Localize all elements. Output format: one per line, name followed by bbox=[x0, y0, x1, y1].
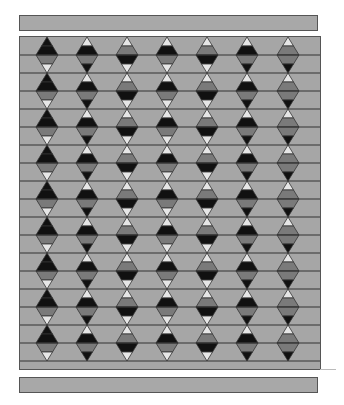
bottom-bar bbox=[19, 377, 318, 393]
diamond-bottom-segment bbox=[82, 352, 93, 361]
diamond-lower-segment bbox=[76, 271, 98, 280]
diamond-upper-segment bbox=[76, 82, 98, 91]
diamond-bottom-segment bbox=[82, 136, 93, 145]
diamond-lower-segment bbox=[116, 199, 138, 208]
diamond-top-segment bbox=[202, 37, 213, 46]
diamond-upper-segment bbox=[116, 298, 138, 307]
diamond-bottom-segment bbox=[202, 316, 213, 325]
diamond-top-segment bbox=[122, 253, 133, 262]
diamond-top-segment bbox=[42, 37, 53, 46]
diamond-lower-segment bbox=[156, 271, 178, 280]
diamond-lower-segment bbox=[36, 199, 58, 208]
diamond-top-segment bbox=[82, 181, 93, 190]
diamond-upper-segment bbox=[116, 118, 138, 127]
diamond-upper-segment bbox=[277, 82, 299, 91]
diamond-lower-segment bbox=[116, 163, 138, 172]
diamond-top-segment bbox=[42, 73, 53, 82]
diamond-lower-segment bbox=[277, 91, 299, 100]
diamond-bottom-segment bbox=[283, 352, 294, 361]
diamond-lower-segment bbox=[277, 55, 299, 64]
diamond-upper-segment bbox=[36, 82, 58, 91]
diamond-lower-segment bbox=[76, 343, 98, 352]
diamond-upper-segment bbox=[116, 190, 138, 199]
diamond-top-segment bbox=[283, 217, 294, 226]
diamond-bottom-segment bbox=[122, 136, 133, 145]
diamond-lower-segment bbox=[36, 91, 58, 100]
diamond-bottom-segment bbox=[82, 244, 93, 253]
diamond-top-segment bbox=[82, 145, 93, 154]
diamond-upper-segment bbox=[76, 334, 98, 343]
diamond-top-segment bbox=[122, 181, 133, 190]
diamond-bottom-segment bbox=[162, 136, 173, 145]
diamond-upper-segment bbox=[277, 46, 299, 55]
diamond-bottom-segment bbox=[82, 208, 93, 217]
diamond-pattern-frame bbox=[19, 36, 321, 370]
diamond-bottom-segment bbox=[202, 352, 213, 361]
diamond-bottom-segment bbox=[42, 352, 53, 361]
diamond-top-segment bbox=[283, 145, 294, 154]
diamond-upper-segment bbox=[196, 190, 218, 199]
diamond-top-segment bbox=[122, 145, 133, 154]
diamond-bottom-segment bbox=[283, 208, 294, 217]
diamond-lower-segment bbox=[196, 199, 218, 208]
diamond-upper-segment bbox=[156, 262, 178, 271]
diamond-top-segment bbox=[242, 289, 253, 298]
diamond-lower-segment bbox=[156, 163, 178, 172]
diamond-bottom-segment bbox=[162, 100, 173, 109]
diamond-bottom-segment bbox=[283, 280, 294, 289]
diamond-bottom-segment bbox=[82, 316, 93, 325]
diamond-upper-segment bbox=[116, 334, 138, 343]
diamond-bottom-segment bbox=[202, 208, 213, 217]
diamond-lower-segment bbox=[36, 307, 58, 316]
diamond-bottom-segment bbox=[202, 244, 213, 253]
diamond-bottom-segment bbox=[283, 244, 294, 253]
diamond-top-segment bbox=[242, 145, 253, 154]
diamond-bottom-segment bbox=[82, 172, 93, 181]
diamond-upper-segment bbox=[277, 190, 299, 199]
diamond-top-segment bbox=[162, 37, 173, 46]
diamond-bottom-segment bbox=[42, 244, 53, 253]
diamond-lower-segment bbox=[116, 55, 138, 64]
diamond-upper-segment bbox=[196, 154, 218, 163]
diamond-upper-segment bbox=[76, 154, 98, 163]
diamond-lower-segment bbox=[196, 127, 218, 136]
diamond-top-segment bbox=[42, 145, 53, 154]
diamond-bottom-segment bbox=[162, 316, 173, 325]
diamond-top-segment bbox=[42, 109, 53, 118]
diamond-lower-segment bbox=[196, 271, 218, 280]
diamond-upper-segment bbox=[236, 226, 258, 235]
diamond-upper-segment bbox=[36, 262, 58, 271]
diamond-bottom-segment bbox=[202, 100, 213, 109]
diamond-bottom-segment bbox=[202, 280, 213, 289]
diamond-lower-segment bbox=[76, 235, 98, 244]
diamond-lower-segment bbox=[236, 127, 258, 136]
diamond-bottom-segment bbox=[82, 100, 93, 109]
diamond-lower-segment bbox=[277, 127, 299, 136]
diamond-bottom-segment bbox=[283, 316, 294, 325]
diamond-top-segment bbox=[202, 145, 213, 154]
diamond-upper-segment bbox=[196, 298, 218, 307]
diamond-lower-segment bbox=[236, 271, 258, 280]
diamond-lower-segment bbox=[277, 343, 299, 352]
diamond-upper-segment bbox=[156, 226, 178, 235]
diamond-top-segment bbox=[82, 289, 93, 298]
diamond-upper-segment bbox=[156, 334, 178, 343]
diamond-bottom-segment bbox=[242, 352, 253, 361]
diamond-bottom-segment bbox=[162, 172, 173, 181]
diamond-bottom-segment bbox=[242, 316, 253, 325]
diamond-top-segment bbox=[283, 37, 294, 46]
diamond-top-segment bbox=[283, 73, 294, 82]
diamond-upper-segment bbox=[116, 154, 138, 163]
diamond-top-segment bbox=[42, 325, 53, 334]
diamond-bottom-segment bbox=[162, 244, 173, 253]
diamond-upper-segment bbox=[36, 226, 58, 235]
diamond-bottom-segment bbox=[162, 64, 173, 73]
diamond-upper-segment bbox=[236, 46, 258, 55]
diamond-bottom-segment bbox=[42, 280, 53, 289]
diamond-lower-segment bbox=[156, 127, 178, 136]
diamond-top-segment bbox=[162, 325, 173, 334]
diamond-bottom-segment bbox=[122, 172, 133, 181]
diamond-upper-segment bbox=[76, 190, 98, 199]
diamond-lower-segment bbox=[116, 307, 138, 316]
diamond-lower-segment bbox=[236, 91, 258, 100]
